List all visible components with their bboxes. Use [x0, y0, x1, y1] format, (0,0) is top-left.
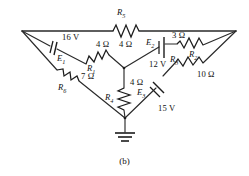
label-R4-value: 4 Ω	[130, 78, 143, 87]
label-R1-value: 4 Ω	[96, 40, 109, 49]
label-R5-value: 4 Ω	[119, 40, 132, 49]
wire-left-apex-to-R6	[22, 31, 57, 70]
wire-R1-to-center-node	[109, 55, 124, 68]
wire-right-apex-to-R3	[203, 31, 236, 63]
label-E3-value: 15 V	[158, 104, 175, 113]
label-R2-name: R2	[189, 50, 198, 61]
resistor-R5-zigzag	[113, 25, 139, 37]
battery-E1-short-plate	[50, 41, 53, 53]
resistor-R4-zigzag	[118, 88, 130, 110]
label-R4-name: R4	[105, 93, 114, 104]
label-E2-name: E2	[146, 38, 155, 49]
label-R3-value: 10 Ω	[197, 70, 215, 79]
label-R6-value: 7 Ω	[81, 72, 94, 81]
label-E2-value: 12 V	[149, 60, 166, 69]
label-R5-name: R5	[117, 8, 126, 19]
wire-right-apex-to-R2	[203, 31, 236, 45]
label-E1-name: E1	[57, 54, 66, 65]
resistor-R6-zigzag	[57, 69, 79, 81]
label-E1-value: 16 V	[62, 33, 79, 42]
node-dot-center	[123, 67, 126, 70]
wire-left-apex-to-E1	[22, 31, 50, 46]
label-E3-name: E3	[137, 88, 146, 99]
circuit-schematic-svg	[0, 0, 249, 176]
figure-caption: (b)	[0, 156, 249, 166]
label-R2-value: 3 Ω	[172, 31, 185, 40]
label-R3-name: R3	[170, 55, 179, 66]
circuit-diagram-figure: R5 4 Ω 16 V E1 4 Ω R1 R6 7 Ω E2 12 V 3 Ω…	[0, 0, 249, 176]
node-dot-bottom	[124, 117, 127, 120]
resistor-R1-zigzag	[86, 50, 109, 64]
label-R6-name: R6	[58, 83, 67, 94]
